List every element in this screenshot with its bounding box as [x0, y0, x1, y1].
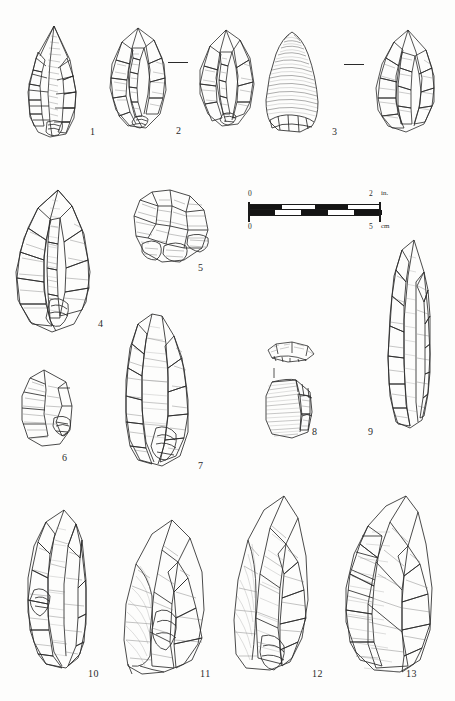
- scale-tick-start: [248, 202, 250, 222]
- scale-bar: 0 2 in. 0 5 cm: [248, 200, 381, 216]
- scale-cm-unit-label: cm: [381, 222, 390, 230]
- figure-11-flake-large-retouched: [118, 516, 210, 678]
- scale-inches-unit-label: in.: [381, 189, 388, 197]
- figure-label-7: 7: [198, 460, 204, 471]
- figure-8-core-fragment-body-view: [262, 378, 318, 440]
- scale-cm-end-label: 5: [369, 222, 373, 231]
- figure-label-12: 12: [312, 668, 323, 679]
- figure-label-3: 3: [332, 126, 338, 137]
- figure-label-11: 11: [200, 668, 211, 679]
- figure-10-biface-narrow-point: [18, 506, 98, 672]
- figure-8-core-fragment-tick: [271, 368, 277, 378]
- figure-label-4: 4: [98, 318, 104, 329]
- figure-6-scraper-side-retouched: [18, 366, 80, 450]
- figure-label-13: 13: [406, 668, 417, 679]
- figure-label-10: 10: [88, 668, 99, 679]
- figure-5-core-multiplatform: [128, 186, 214, 270]
- artifact-plate: 1: [0, 0, 455, 701]
- scale-inches-end-label: 2: [369, 189, 373, 198]
- figure-13-flake-broad-retouched: [334, 492, 440, 676]
- figure-label-1: 1: [90, 126, 96, 137]
- figure-8-core-fragment-top-view: [262, 340, 318, 366]
- dash-separator-1: [168, 62, 188, 63]
- scale-track-centimeters: [248, 210, 381, 216]
- figure-label-6: 6: [62, 452, 68, 463]
- figure-2-biface-ovate-flaked: [102, 24, 174, 134]
- figure-7-blade-elongated-retouched: [118, 310, 198, 470]
- figure-3-conical-core-bullet-shaped: [256, 28, 328, 136]
- figure-4-biface-elongated-point: [8, 186, 108, 336]
- figure-1-biface-point-leaf-shaped: [14, 22, 94, 142]
- figure-12-flake-triangular-retouched: [228, 492, 314, 674]
- scale-cm-start-label: 0: [248, 222, 252, 231]
- figure-2-alternate-view: [192, 26, 262, 134]
- figure-label-8: 8: [312, 426, 318, 437]
- scale-inches-start-label: 0: [248, 189, 252, 198]
- figure-9-blade-narrow-elongated: [380, 236, 436, 432]
- figure-label-5: 5: [198, 262, 204, 273]
- dash-separator-2: [344, 64, 364, 65]
- figure-label-9: 9: [368, 426, 374, 437]
- scale-tick-end: [379, 202, 381, 222]
- figure-label-2: 2: [176, 125, 182, 136]
- figure-top-right-biface: [368, 26, 444, 136]
